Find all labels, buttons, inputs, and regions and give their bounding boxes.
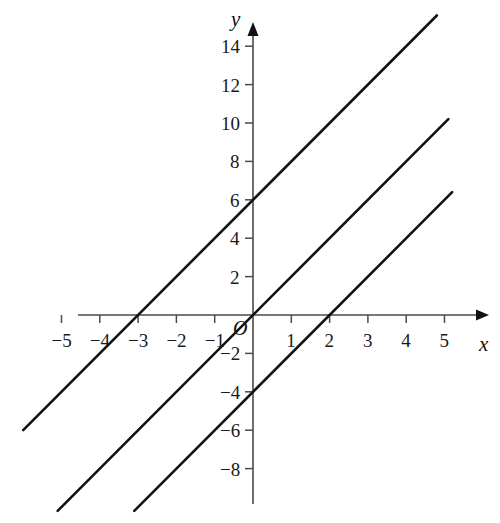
origin-label: O xyxy=(233,318,247,338)
y-axis-ticks xyxy=(245,46,253,468)
y-tick-label: 14 xyxy=(221,37,240,56)
x-axis-arrowhead xyxy=(476,310,489,321)
x-tick-label: 4 xyxy=(401,331,411,350)
x-tick-label: −5 xyxy=(52,331,72,350)
y-tick-label: 4 xyxy=(230,229,240,248)
y-tick-label: 2 xyxy=(230,268,240,287)
y-axis-label: y xyxy=(231,9,240,30)
x-axis-label: x xyxy=(479,334,488,355)
x-tick-label: 3 xyxy=(363,331,373,350)
axis-group xyxy=(78,22,489,504)
x-tick-label: 1 xyxy=(286,331,296,350)
y-tick-label: 10 xyxy=(221,114,240,133)
y-tick-label: −6 xyxy=(220,421,240,440)
y-axis-arrowhead xyxy=(248,22,259,36)
y-tick-label: 6 xyxy=(230,191,240,210)
y-tick-label: −4 xyxy=(220,383,240,402)
y-tick-label: −2 xyxy=(220,344,240,363)
graph-figure: −5−4−3−2−1123451412108642−2−4−6−8 x y O xyxy=(0,0,500,523)
x-tick-label: 2 xyxy=(325,331,335,350)
x-tick-label: −2 xyxy=(166,331,186,350)
x-tick-label: −4 xyxy=(90,331,110,350)
x-tick-label: −3 xyxy=(128,331,148,350)
y-tick-label: −8 xyxy=(220,460,240,479)
y-tick-label: 8 xyxy=(230,152,240,171)
plotted-line xyxy=(134,192,452,511)
x-tick-label: 5 xyxy=(440,331,450,350)
coordinate-plane xyxy=(0,0,500,523)
y-tick-label: 12 xyxy=(221,76,240,95)
